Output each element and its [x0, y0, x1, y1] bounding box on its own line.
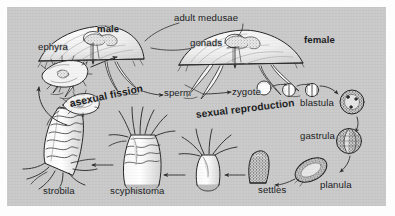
label-zygote: zygote: [232, 87, 261, 97]
young-polyp-drawing: [179, 129, 237, 191]
label-settles: settles: [258, 185, 286, 195]
label-planula: planula: [320, 180, 352, 190]
label-gonads: gonads: [190, 38, 222, 48]
life-cycle-figure: ephyra male adult medusae gonads female …: [0, 0, 395, 216]
gastrula-drawing: [337, 129, 362, 155]
settled-planula-drawing: [249, 151, 269, 183]
label-gastrula: gastrula: [300, 131, 335, 141]
label-blastula: blastula: [300, 98, 334, 108]
label-adult-medusae: adult medusae: [174, 13, 238, 23]
label-male: male: [97, 24, 119, 34]
label-female: female: [304, 35, 335, 45]
ephyra-drawing: [41, 56, 92, 92]
label-scyphistoma: scyphistoma: [110, 186, 164, 196]
label-sperm: sperm: [164, 88, 191, 98]
two-cell-stage: [283, 84, 296, 97]
diagram-panel: ephyra male adult medusae gonads female …: [7, 7, 386, 206]
strobila-drawing: [23, 107, 97, 191]
label-strobila: strobila: [43, 186, 75, 196]
scyphistoma-drawing: [109, 107, 175, 193]
label-ephyra: ephyra: [38, 42, 68, 52]
four-cell-stage: [305, 83, 318, 96]
blastula-drawing: [340, 90, 364, 114]
